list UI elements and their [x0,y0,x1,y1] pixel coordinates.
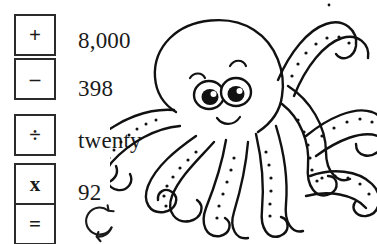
divide-icon: ÷ [29,125,41,146]
plus-key[interactable]: + [14,14,56,56]
times-key[interactable]: x [14,163,56,205]
equals-key[interactable]: = [14,203,56,244]
worksheet-page: + – ÷ x = 8,000 398 twenty 92 [0,0,377,244]
minus-icon: – [30,69,41,90]
value-label: 398 [78,76,113,102]
divide-key[interactable]: ÷ [14,114,56,156]
equals-icon: = [29,214,41,235]
plus-icon: + [29,25,41,46]
minus-key[interactable]: – [14,58,56,100]
times-icon: x [30,174,41,195]
octopus-illustration [110,0,377,244]
